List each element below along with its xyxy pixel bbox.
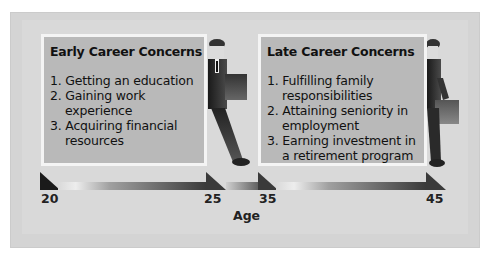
early-career-title: Early Career Concerns — [50, 44, 202, 59]
timeline-arrow-late — [258, 172, 446, 190]
age-tick-45: 45 — [426, 191, 443, 206]
age-axis-label: Age — [233, 208, 260, 223]
age-tick-35: 35 — [259, 191, 276, 206]
late-career-title: Late Career Concerns — [267, 44, 415, 59]
list-item: 2. Attaining seniority in employment — [267, 103, 424, 133]
age-tick-25: 25 — [204, 191, 221, 206]
list-item: 3. Earning investment in a retirement pr… — [267, 133, 424, 163]
list-item: 3. Acquiring financial resources — [50, 118, 204, 148]
timeline-arrow-early — [40, 172, 226, 190]
list-item: 1. Fulfilling family responsibilities — [267, 73, 424, 103]
businessman-walking-icon — [203, 38, 255, 170]
businessman-walking-icon — [427, 38, 467, 170]
late-career-box: Late Career Concerns 1. Fulfilling famil… — [258, 34, 427, 166]
list-item: 2. Gaining work experience — [50, 88, 204, 118]
list-item: 1. Getting an education — [50, 73, 204, 88]
timeline-connector — [226, 172, 260, 190]
age-tick-20: 20 — [41, 191, 58, 206]
early-career-list: 1. Getting an education 2. Gaining work … — [50, 73, 204, 148]
early-career-box: Early Career Concerns 1. Getting an educ… — [41, 34, 207, 166]
late-career-list: 1. Fulfilling family responsibilities 2.… — [267, 73, 424, 163]
